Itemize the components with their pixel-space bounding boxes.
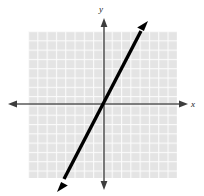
coordinate-plane-figure: x y: [0, 0, 204, 196]
x-axis-arrow-right-icon: [179, 101, 188, 108]
line-arrow-upper-icon: [137, 21, 148, 31]
graph-canvas: x y: [0, 0, 204, 196]
y-axis-arrow-up-icon: [101, 18, 108, 27]
y-axis-arrow-down-icon: [101, 181, 108, 190]
y-axis-label: y: [98, 4, 103, 14]
x-axis-arrow-left-icon: [8, 101, 17, 108]
line-arrow-lower-icon: [57, 182, 68, 192]
x-axis-label: x: [190, 99, 195, 109]
